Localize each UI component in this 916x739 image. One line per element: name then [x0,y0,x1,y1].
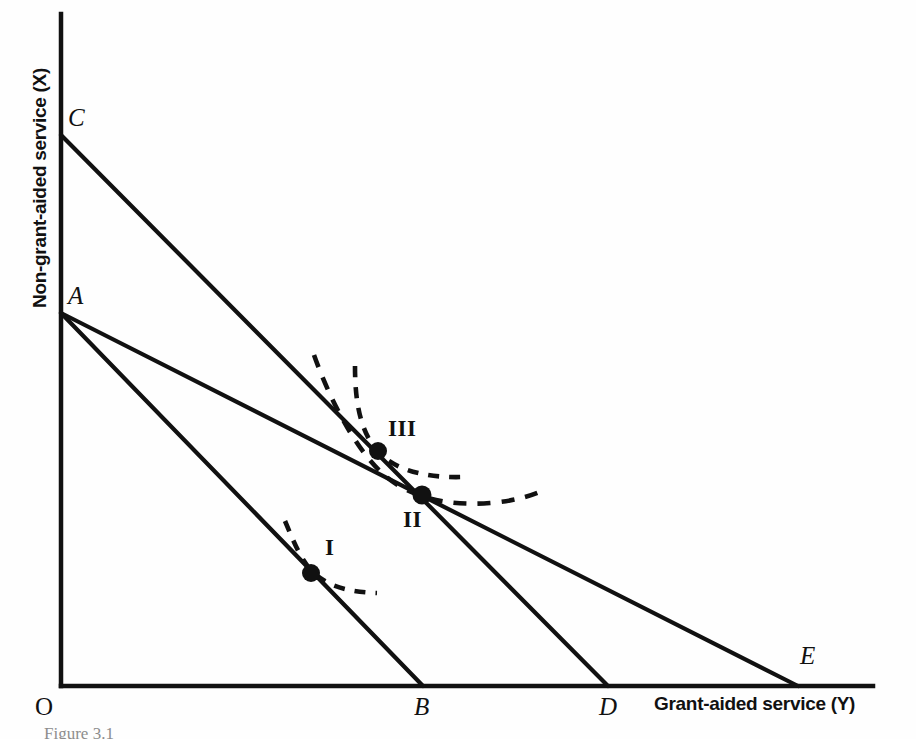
point-label-a: A [68,283,83,308]
point-label-e: E [800,643,815,668]
tangency-point-ii [413,486,432,505]
point-label-c: C [68,105,85,130]
tangency-point-iii [369,442,387,460]
figure-caption: Figure 3.1 [44,724,114,739]
x-axis-title: Grant-aided service (Y) [654,694,855,713]
point-label-b: B [414,694,429,719]
point-label-d: D [599,694,617,719]
curve-label-ii: II [403,508,422,531]
budget-line-ab [61,313,423,686]
y-axis-title: Non-grant-aided service (X) [30,68,49,308]
curve-label-iii: III [388,417,416,440]
economics-diagram [0,0,916,739]
indifference-curve-ii [314,355,546,504]
origin-label: O [35,694,53,719]
budget-line-cd [61,135,608,686]
figure-container: Non-grant-aided service (X) Grant-aided … [0,0,916,739]
curve-label-i: I [325,536,334,559]
tangency-point-i [302,564,320,582]
